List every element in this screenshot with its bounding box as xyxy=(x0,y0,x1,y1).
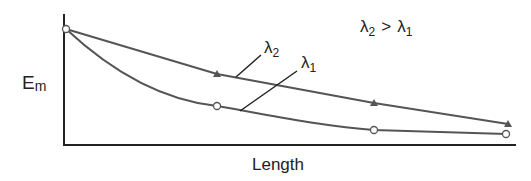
x-axis-label: Length xyxy=(252,155,304,174)
circle-marker xyxy=(371,127,378,134)
y-axis-label: Em xyxy=(22,72,46,94)
diagram: λ2 λ1 λ2>λ1 Em Length xyxy=(0,0,531,181)
annotation-lambda2-gt-lambda1: λ2>λ1 xyxy=(360,17,413,39)
start-point-marker xyxy=(63,26,70,33)
lambda1-leader-line xyxy=(240,71,297,111)
circle-marker xyxy=(503,131,510,138)
lambda1-label: λ1 xyxy=(301,53,317,75)
lambda2-leader-line xyxy=(236,55,261,77)
series-lambda1-line xyxy=(66,29,506,134)
circle-marker xyxy=(214,103,221,110)
lambda2-label: λ2 xyxy=(264,38,280,60)
chart-svg: λ2 λ1 λ2>λ1 Em Length xyxy=(0,0,531,181)
series-lambda2-line xyxy=(66,29,508,124)
